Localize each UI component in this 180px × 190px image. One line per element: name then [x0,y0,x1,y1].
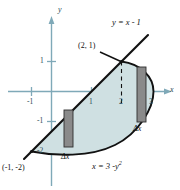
point-marker-lower [30,150,33,153]
y-tick-label-neg2: -2 [37,147,43,155]
x-tick-label-3: 3 [149,98,153,106]
point-leader-line [100,52,122,62]
x-tick-label-2: 2 [119,98,123,106]
x-tick-label-neg1: -1 [27,98,33,106]
point-label-upper: (2, 1) [78,42,95,50]
right-rectangle-label: Δx [133,125,141,133]
math-figure: y x -1 1 2 3 1 -1 -2 y = x - 1 x = 3 -y2… [0,0,180,190]
shaded-region [32,62,154,155]
parabola-equation-label: x = 3 -y2 [92,160,122,170]
point-marker-upper [120,60,123,63]
x-tick-label-1: 1 [89,98,93,106]
line-equation-label: y = x - 1 [112,18,141,27]
x-axis-label: x [170,86,174,94]
y-axis-arrowhead [49,16,55,24]
left-rectangle-label: Δx [61,153,69,161]
parabola-equation-lead: x = 3 - [92,161,115,171]
y-tick-label-1: 1 [40,57,44,65]
y-axis-label: y [58,6,62,14]
left-rectangle [64,110,73,147]
parabola-equation-exponent: 2 [119,160,122,166]
right-rectangle [137,67,146,122]
y-tick-label-neg1: -1 [37,117,43,125]
point-label-lower: (-1, -2) [2,164,25,172]
figure-canvas [0,0,180,190]
